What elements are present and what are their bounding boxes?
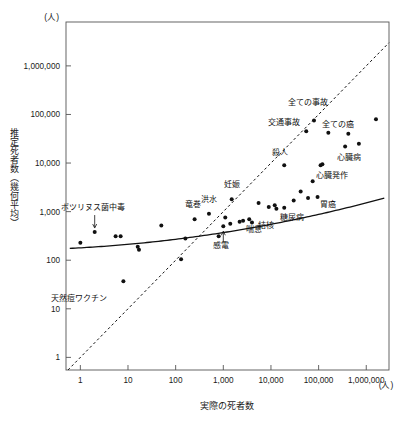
data-point-label: 交通事故 xyxy=(268,117,300,127)
data-point-unlabeled xyxy=(374,117,378,121)
data-point-unlabeled xyxy=(159,223,163,227)
data-point-unlabeled xyxy=(274,207,278,211)
data-point xyxy=(316,195,320,199)
x-axis-title: 実際の死者数 xyxy=(200,400,254,411)
data-point-unlabeled xyxy=(357,142,361,146)
data-point-label: ボツリヌス菌中毒 xyxy=(61,202,125,212)
data-point-label: 天然痘ワクチン xyxy=(51,293,107,303)
y-tick-label: 10 xyxy=(51,305,61,314)
plot-canvas: 1101001,00010,000100,0001,000,000 110100… xyxy=(0,0,403,424)
x-tick-label: 10,000 xyxy=(258,376,283,385)
data-point xyxy=(207,212,211,216)
x-tick-label: 1,000 xyxy=(213,376,234,385)
y-axis-ticks: 1101001,00010,000100,0001,000,000 xyxy=(24,62,71,363)
data-point-label: 糖尿病 xyxy=(280,212,304,222)
x-tick-label: 100 xyxy=(169,376,183,385)
data-point-unlabeled xyxy=(306,196,310,200)
y-tick-label: 10,000 xyxy=(35,159,60,168)
y-tick-label: 1,000 xyxy=(40,208,61,217)
x-axis-unit-label: (人) xyxy=(379,380,394,390)
data-point-label: 心臓発作 xyxy=(316,170,348,180)
data-point-unlabeled xyxy=(137,248,141,252)
data-point-label: 殺人 xyxy=(272,147,288,157)
data-point xyxy=(238,220,242,224)
data-point-label: 感電 xyxy=(213,240,229,250)
data-point xyxy=(312,119,316,123)
data-point-unlabeled xyxy=(346,132,350,136)
data-point-label: 心臓病 xyxy=(337,152,361,162)
data-point-label: 全ての癌 xyxy=(322,119,354,129)
data-point xyxy=(304,129,308,133)
data-point-unlabeled xyxy=(119,234,123,238)
y-tick-label: 100,000 xyxy=(30,110,60,119)
data-point xyxy=(326,131,330,135)
data-point xyxy=(320,162,324,166)
y-tick-label: 100 xyxy=(46,256,60,265)
data-point-unlabeled xyxy=(179,257,183,261)
data-point-unlabeled xyxy=(299,189,303,193)
data-point-unlabeled xyxy=(228,222,232,226)
data-point-unlabeled xyxy=(292,198,296,202)
data-point xyxy=(230,197,234,201)
data-point-label: 胃癌 xyxy=(320,199,336,209)
data-point-unlabeled xyxy=(114,234,118,238)
data-point-unlabeled xyxy=(223,215,227,219)
data-point-label: 妊娠 xyxy=(224,179,240,189)
data-point-label: 竜巻 xyxy=(185,199,201,209)
x-tick-label: 10 xyxy=(123,376,133,385)
data-point-label: 結核 xyxy=(258,220,274,230)
data-point-unlabeled xyxy=(78,241,82,245)
data-point xyxy=(93,230,97,234)
data-point-unlabeled xyxy=(217,234,221,238)
data-point-label: 洪水 xyxy=(201,194,217,204)
data-point-label: 全ての事故 xyxy=(288,97,328,107)
data-point xyxy=(343,144,347,148)
y-axis-unit-label: (人) xyxy=(44,12,59,22)
plot-frame xyxy=(66,22,389,370)
x-tick-label: 100,000 xyxy=(304,376,334,385)
data-point xyxy=(121,279,125,283)
data-point xyxy=(282,163,286,167)
data-point-unlabeled xyxy=(183,236,187,240)
data-point xyxy=(282,206,286,210)
data-point-unlabeled xyxy=(267,205,271,209)
data-point-unlabeled xyxy=(247,217,251,221)
data-point-unlabeled xyxy=(241,219,245,223)
data-point-unlabeled xyxy=(257,201,261,205)
x-tick-label: 1 xyxy=(78,376,83,385)
y-tick-label: 1,000,000 xyxy=(24,62,61,71)
data-point xyxy=(221,224,225,228)
data-point xyxy=(193,217,197,221)
data-point-unlabeled xyxy=(311,179,315,183)
risk-perception-chart: 推定死者数（幾何平均） 1101001,00010,000100,0001,00… xyxy=(0,0,403,424)
y-tick-label: 1 xyxy=(55,353,60,362)
